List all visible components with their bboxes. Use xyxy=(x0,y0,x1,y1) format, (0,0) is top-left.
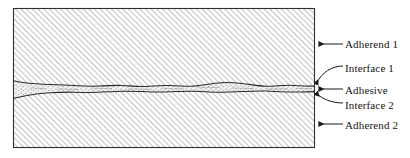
label-adherend-2: Adherend 2 xyxy=(345,119,398,131)
label-adhesive: Adhesive xyxy=(345,84,388,96)
adhesive-joint-diagram xyxy=(0,0,410,158)
label-interface-2: Interface 2 xyxy=(345,99,394,111)
label-interface-1: Interface 1 xyxy=(345,62,394,74)
label-adherend-1: Adherend 1 xyxy=(345,38,398,50)
